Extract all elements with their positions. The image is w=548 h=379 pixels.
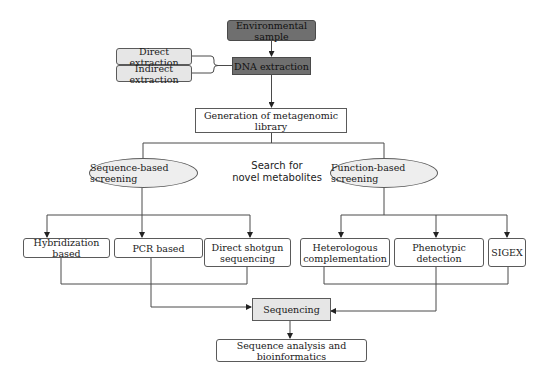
node-label: Environmental sample [228, 20, 315, 42]
sigex-node: SIGEX [488, 238, 526, 267]
search-novel-metabolites-label: Search for novel metabolites [222, 160, 332, 184]
sequence-based-screening-node: Sequence-based screening [89, 158, 198, 188]
dna-extraction-node: DNA extraction [232, 57, 311, 75]
function-based-screening-node: Function-based screening [330, 158, 438, 188]
direct-shotgun-node: Direct shotgun sequencing [204, 238, 291, 267]
sequence-analysis-node: Sequence analysis and bioinformatics [216, 339, 367, 362]
hybridization-node: Hybridization based [23, 238, 110, 258]
sequencing-node: Sequencing [252, 298, 331, 321]
node-label: Phenotypic detection [395, 242, 483, 264]
node-label-line-2: sequencing [220, 253, 275, 264]
node-label-line-1: Heterologous [312, 242, 377, 253]
environmental-sample-node: Environmental sample [227, 20, 316, 41]
node-label: Generation of metagenomic library [196, 110, 346, 132]
pcr-node: PCR based [114, 238, 203, 258]
phenotypic-detection-node: Phenotypic detection [394, 238, 484, 267]
generation-library-node: Generation of metagenomic library [195, 108, 347, 133]
node-label: SIGEX [491, 247, 523, 258]
node-label: Sequence analysis and bioinformatics [217, 340, 366, 362]
node-label: Hybridization based [24, 237, 109, 259]
heterologous-node: Heterologous complementation [300, 238, 390, 267]
node-label: DNA extraction [234, 61, 309, 72]
node-label: Indirect extraction [117, 63, 191, 85]
node-label: Sequence-based screening [90, 162, 197, 184]
node-label: Sequencing [263, 304, 320, 315]
node-label-line-2: complementation [303, 253, 387, 264]
node-label: PCR based [132, 243, 184, 254]
node-label-line-1: Direct shotgun [212, 242, 284, 253]
node-label: Function-based screening [331, 162, 437, 184]
indirect-extraction-node: Indirect extraction [116, 65, 192, 82]
label-line-1: Search for [222, 160, 332, 172]
label-line-2: novel metabolites [222, 172, 332, 184]
